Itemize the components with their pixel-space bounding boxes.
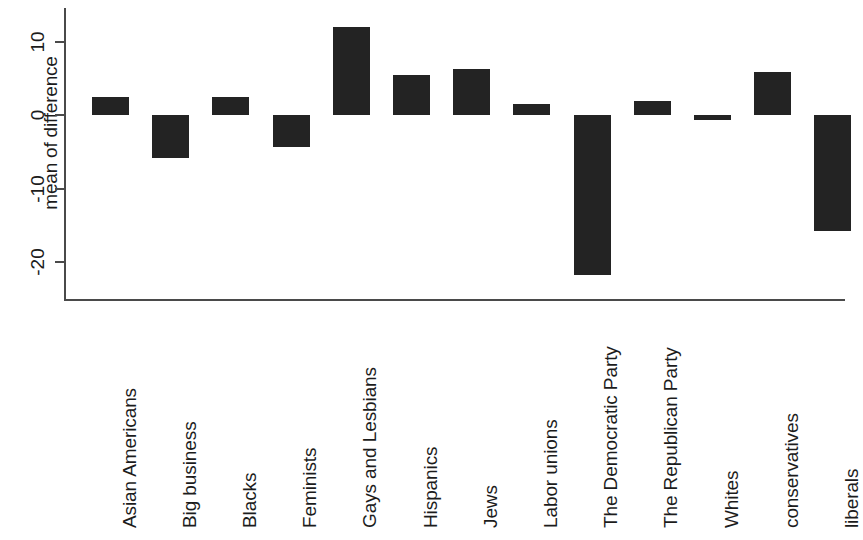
bar-whites [694, 115, 731, 120]
bar-liberals [814, 115, 851, 231]
x-tick-label-blacks: Blacks [239, 473, 261, 528]
x-tick-label-the-republican-party: The Republican Party [660, 347, 682, 528]
y-tick-label-10: 10 [27, 27, 53, 57]
x-axis-line [64, 299, 845, 301]
x-tick-label-asian-americans: Asian Americans [119, 388, 141, 528]
bar-big-business [152, 115, 189, 158]
x-tick-label-liberals: liberals [841, 469, 863, 528]
x-tick-label-feminists: Feminists [299, 448, 321, 528]
y-tick-label--10: -10 [27, 167, 53, 211]
x-tick-label-hispanics: Hispanics [420, 447, 442, 528]
bar-hispanics [393, 75, 430, 115]
bar-the-republican-party [634, 101, 671, 115]
y-tick-label--20: -20 [27, 240, 53, 284]
y-tick-mark-0 [55, 114, 64, 116]
bar-gays-and-lesbians [333, 27, 370, 115]
x-tick-label-labor-unions: Labor unions [540, 419, 562, 528]
bar-conservatives [754, 72, 791, 115]
bar-the-democratic-party [574, 115, 611, 275]
x-tick-label-jews: Jews [480, 485, 502, 528]
y-tick-label-0: 0 [27, 100, 53, 130]
x-tick-label-big-business: Big business [179, 421, 201, 528]
bar-asian-americans [92, 97, 129, 115]
x-tick-label-whites: Whites [721, 471, 743, 528]
bar-blacks [212, 97, 249, 115]
x-tick-label-conservatives: conservatives [781, 413, 803, 528]
y-tick-mark--10 [55, 188, 64, 190]
x-tick-label-the-democratic-party: The Democratic Party [600, 346, 622, 528]
bar-labor-unions [513, 104, 550, 115]
y-tick-mark--20 [55, 261, 64, 263]
y-tick-mark-10 [55, 41, 64, 43]
x-tick-label-gays-and-lesbians: Gays and Lesbians [359, 367, 381, 528]
bar-jews [453, 69, 490, 115]
y-axis-line [64, 8, 66, 300]
bar-feminists [273, 115, 310, 147]
